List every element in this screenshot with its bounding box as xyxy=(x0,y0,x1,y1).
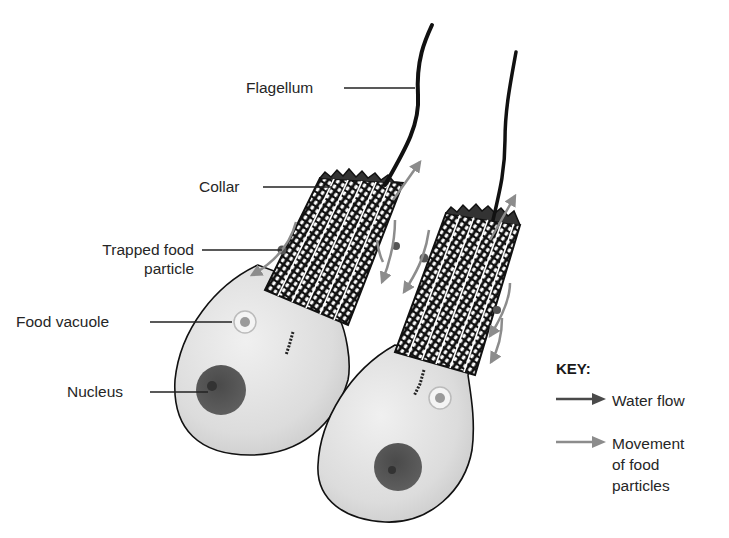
flagellum-left xyxy=(385,25,432,185)
key-title: KEY: xyxy=(556,360,591,377)
food-vacuole-right xyxy=(429,387,451,409)
trapped-food-label: Trapped food particle xyxy=(66,240,194,278)
trapped-food-label-line2: particle xyxy=(66,259,194,278)
dark-arrow-icon xyxy=(556,390,612,409)
food-vacuole-label: Food vacuole xyxy=(16,312,109,331)
choanocyte-diagram: Flagellum Collar Trapped food particle F… xyxy=(0,0,729,538)
nucleus-left xyxy=(196,365,246,415)
key-item-water-flow: Water flow xyxy=(556,390,685,411)
gray-arrow-icon xyxy=(556,433,612,452)
nucleus-right xyxy=(374,443,422,491)
key-label-water-flow: Water flow xyxy=(612,390,685,411)
flagellum-right xyxy=(493,52,516,220)
key-item-food-movement: Movement of food particles xyxy=(556,433,684,496)
key-label-food-movement: Movement of food particles xyxy=(612,433,684,496)
collar-label: Collar xyxy=(199,177,239,196)
trapped-food-label-line1: Trapped food xyxy=(66,240,194,259)
nucleus-label: Nucleus xyxy=(67,382,123,401)
collar-right xyxy=(395,204,520,375)
food-vacuole-left xyxy=(234,311,256,333)
flagellum-label: Flagellum xyxy=(246,78,313,97)
